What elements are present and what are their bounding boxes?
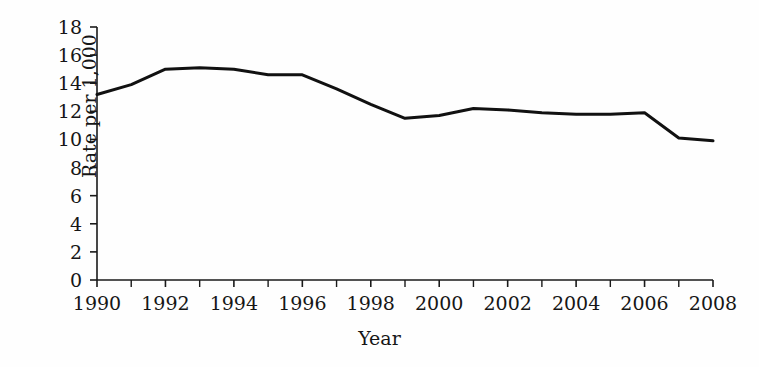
y-tick-label: 14 xyxy=(48,74,82,93)
y-tick-label: 0 xyxy=(48,271,82,290)
x-tick-label: 1996 xyxy=(267,294,337,313)
x-tick-label: 1992 xyxy=(130,294,200,313)
x-axis-ticks xyxy=(97,280,713,287)
y-tick-label: 4 xyxy=(48,215,82,234)
x-tick-label: 2008 xyxy=(678,294,748,313)
x-tick-label: 2006 xyxy=(610,294,680,313)
x-tick-label: 2002 xyxy=(473,294,543,313)
y-tick-label: 12 xyxy=(48,102,82,121)
x-tick-label: 2000 xyxy=(404,294,474,313)
y-tick-label: 10 xyxy=(48,130,82,149)
y-tick-label: 6 xyxy=(48,187,82,206)
chart-figure: Rate per 1,000 Year 024681012141618 1990… xyxy=(0,0,759,367)
y-tick-label: 8 xyxy=(48,159,82,178)
y-tick-label: 2 xyxy=(48,243,82,262)
x-tick-label: 1994 xyxy=(199,294,269,313)
y-axis-ticks xyxy=(90,27,97,280)
x-tick-label: 1998 xyxy=(336,294,406,313)
x-tick-label: 1990 xyxy=(62,294,132,313)
data-series-line xyxy=(97,68,713,141)
y-tick-label: 18 xyxy=(48,18,82,37)
y-tick-label: 16 xyxy=(48,46,82,65)
x-tick-label: 2004 xyxy=(541,294,611,313)
axis-lines xyxy=(97,27,713,280)
